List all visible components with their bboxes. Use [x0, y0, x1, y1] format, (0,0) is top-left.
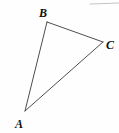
vertex-label-a: A — [15, 118, 23, 130]
triangle-drawing-canvas — [0, 0, 119, 133]
vertex-label-c: C — [106, 39, 114, 51]
figure-background — [0, 0, 119, 133]
geometry-figure: B C A — [0, 0, 119, 133]
vertex-label-b: B — [39, 7, 47, 19]
